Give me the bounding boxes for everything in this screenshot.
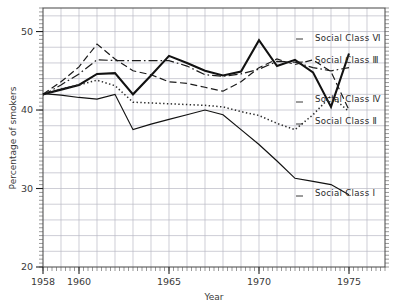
y-tick-label: 20 [21,261,33,272]
y-axis-title: Percentage of smokers [8,86,18,189]
legend-label-3: Social Class Ⅳ [315,94,381,104]
legend-label-2: Social Class Ⅲ [315,55,379,65]
chart-container: 20304050 19581960196519701975 Social Cla… [0,0,399,307]
legend-label-4: Social Class Ⅱ [315,116,377,126]
chart-background [0,0,399,307]
x-tick-label: 1975 [337,276,361,287]
x-axis-title: Year [203,292,223,302]
y-tick-label: 40 [21,104,33,115]
y-tick-label: 30 [21,183,33,194]
x-tick-label: 1960 [67,276,91,287]
legend-label-5: Social Class Ⅰ [315,188,375,198]
x-tick-label: 1965 [157,276,181,287]
y-tick-label: 50 [21,26,33,37]
legend-label-1: Social Class Ⅵ [315,33,381,43]
smoking-trend-line-chart: 20304050 19581960196519701975 Social Cla… [0,0,399,307]
x-tick-label: 1970 [247,276,271,287]
x-tick-label: 1958 [31,276,55,287]
